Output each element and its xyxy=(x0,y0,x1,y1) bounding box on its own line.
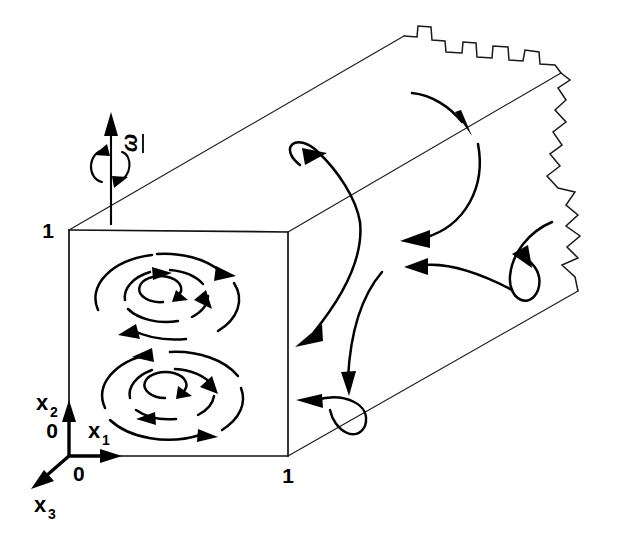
label-axis-x3-subscript: 3 xyxy=(48,506,56,522)
upper-vortex-mid-arc-a xyxy=(125,272,150,300)
lower-vortex xyxy=(102,348,243,442)
streamline-top-back-inflow xyxy=(412,93,462,122)
upper-vortex-outer-arc-c xyxy=(218,283,239,331)
diagram-labels: 1 1 0 0 x 2 x 1 x 3 xyxy=(34,219,294,522)
upper-vortex-outer-arrow-top xyxy=(214,266,236,281)
break-line-top-plane xyxy=(404,26,561,73)
lower-vortex-mid-arrow-right xyxy=(200,376,218,394)
streamline-lower-descent-arrow xyxy=(341,371,356,396)
streamline-upper-loop-tail xyxy=(314,222,360,332)
upper-vortex-mid-arc-d xyxy=(128,309,178,322)
label-axis-x2: x xyxy=(36,390,49,415)
lower-vortex-outer-arc-c xyxy=(222,388,243,430)
omega-label: ω xyxy=(117,134,142,152)
streamline-descending-main-arrow xyxy=(400,230,430,248)
axis-x2-arrowhead xyxy=(62,400,76,422)
omega-rotation-arrow-left xyxy=(94,144,110,156)
rotation-vector-group: ω xyxy=(91,112,143,225)
label-axis-x2-subscript: 2 xyxy=(50,404,58,420)
streamline-mid-upsweep-arrow xyxy=(404,258,428,275)
lower-vortex-outer-arrow-bottom xyxy=(197,429,218,442)
upper-vortex-outer-arrow-bottom xyxy=(118,324,140,339)
streamline-top-back-inflow-arrow xyxy=(455,110,472,136)
omega-axis-arrowhead xyxy=(104,112,118,136)
streamline-mid-upsweep xyxy=(418,265,512,290)
label-axis-x3: x xyxy=(34,492,47,517)
axis-x3-line xyxy=(46,456,69,476)
upper-vortex-outer-arc-d xyxy=(132,330,186,340)
streamline-right-loop xyxy=(510,222,552,301)
duct-streamlines xyxy=(290,93,552,434)
omega-symbol-group: ω xyxy=(117,134,143,153)
streamline-descending-main xyxy=(424,144,480,238)
lower-vortex-outer-arc-b xyxy=(170,352,238,376)
label-origin-vertical: 0 xyxy=(46,419,58,442)
lower-vortex-mid-arrow-bottom-left xyxy=(136,412,156,425)
streamline-lower-loop-arrow xyxy=(296,394,323,408)
upper-vortex xyxy=(95,254,239,340)
lower-vortex-outer-arc-a xyxy=(102,354,150,408)
lower-vortex-mid-arc-c xyxy=(198,396,214,415)
label-axis-x1: x xyxy=(88,418,101,443)
label-corner-top-left: 1 xyxy=(42,219,54,242)
axis-x1-arrowhead xyxy=(100,449,122,463)
figure-root: ω 1 1 0 0 x 2 xyxy=(0,0,617,534)
label-origin-horizontal: 0 xyxy=(73,462,85,485)
duct-flow-diagram: ω 1 1 0 0 x 2 xyxy=(0,0,617,534)
front-face-top-edge xyxy=(69,230,288,232)
omega-rotation-arrow-right xyxy=(112,176,128,188)
bottom-right-receding-edge xyxy=(288,291,578,456)
streamline-lower-descent xyxy=(348,272,382,378)
lower-vortex-inner-arrow xyxy=(176,386,192,399)
label-axis-x2-group: x 2 xyxy=(36,390,58,420)
label-corner-bottom-right: 1 xyxy=(282,464,294,487)
streamline-upper-loop-tail-arrow xyxy=(295,324,323,347)
upper-vortex-mid-arrow-right xyxy=(194,290,212,309)
label-axis-x3-group: x 3 xyxy=(34,492,56,522)
break-line-right-plane xyxy=(547,73,580,291)
label-axis-x1-subscript: 1 xyxy=(102,432,110,448)
upper-vortex-outer-arc-b xyxy=(157,254,220,271)
lower-vortex-outer-arrow-top xyxy=(132,348,154,362)
label-axis-x1-group: x 1 xyxy=(88,418,110,448)
duct-front-face xyxy=(69,230,288,456)
upper-vortex-mid-arc-b xyxy=(170,270,203,284)
